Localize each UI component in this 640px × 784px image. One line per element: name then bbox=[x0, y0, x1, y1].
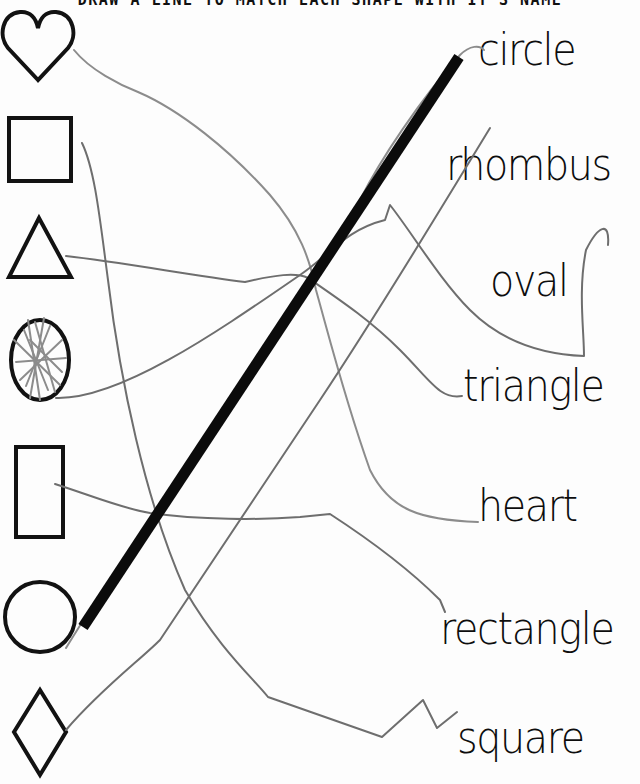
line-oval-to-oval[interactable] bbox=[56, 205, 608, 398]
worksheet: DRAW A LINE TO MATCH EACH SHAPE WITH IT'… bbox=[0, 0, 640, 784]
drawn-lines bbox=[0, 0, 640, 784]
line-triangle-to-triangle[interactable] bbox=[66, 256, 462, 397]
line-rhombus-to-rhombus[interactable] bbox=[66, 128, 490, 730]
line-square-to-square[interactable] bbox=[82, 143, 457, 737]
marker-line-circle-to-circle[interactable] bbox=[83, 57, 459, 627]
